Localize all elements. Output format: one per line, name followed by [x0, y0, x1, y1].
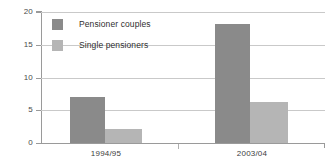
bar-2003-04-pensioner-couples	[215, 24, 250, 143]
legend-item-pensioner-couples: Pensioner couples	[52, 14, 151, 35]
gridline-baseline-0	[41, 143, 325, 144]
x-axis-label-1994-95: 1994/95	[91, 150, 121, 158]
y-tick-label-10: 10	[3, 74, 33, 82]
y-axis-tick-labels: 20 15 10 5 0	[0, 0, 33, 167]
bar-chart: 20 15 10 5 0 1994/95 2003/04 Pensioner c…	[0, 0, 334, 167]
bar-1994-95-pensioner-couples	[70, 97, 105, 143]
x-axis-label-2003-04: 2003/04	[237, 150, 267, 158]
legend-label-single-pensioners: Single pensioners	[79, 41, 148, 50]
gridline-10	[41, 78, 325, 79]
category-separator-tick	[178, 144, 179, 149]
y-tick-label-15: 15	[3, 41, 33, 49]
y-tick-label-5: 5	[3, 106, 33, 114]
legend: Pensioner couples Single pensioners	[52, 14, 151, 56]
y-tick-label-0: 0	[3, 139, 33, 147]
legend-item-single-pensioners: Single pensioners	[52, 35, 151, 56]
bar-1994-95-single-pensioners	[105, 129, 142, 143]
legend-label-pensioner-couples: Pensioner couples	[79, 20, 151, 29]
bar-2003-04-single-pensioners	[250, 102, 288, 143]
gridline-20	[41, 12, 325, 13]
legend-swatch-icon-pensioner-couples	[52, 19, 63, 30]
y-tick-label-20: 20	[3, 8, 33, 16]
legend-swatch-icon-single-pensioners	[52, 40, 63, 51]
